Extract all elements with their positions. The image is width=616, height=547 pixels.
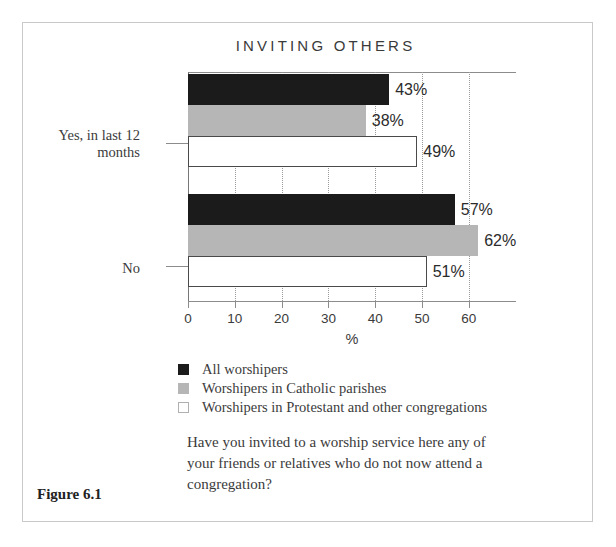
figure-frame: INVITING OTHERS Yes, in last 12 months N…	[22, 22, 593, 522]
x-tick-label-20: 20	[274, 311, 289, 326]
x-axis-title: %	[188, 331, 516, 347]
bar-yes-protestant[interactable]	[188, 136, 417, 167]
x-axis-line	[188, 301, 516, 302]
chart-title: INVITING OTHERS	[23, 37, 592, 54]
category-tick-yes	[166, 143, 188, 144]
bar-yes-all-worshipers[interactable]	[188, 74, 389, 105]
bar-value-yes-catholic: 38%	[366, 112, 404, 130]
x-tick-label-50: 50	[414, 311, 429, 326]
legend-swatch-catholic-parishes	[178, 383, 189, 394]
legend-label-all-worshipers: All worshipers	[202, 361, 288, 378]
category-label-no-line1: No	[0, 260, 140, 277]
bar-group-no: 57% 62% 51%	[188, 194, 516, 288]
legend-item-catholic-parishes[interactable]: Worshipers in Catholic parishes	[178, 379, 487, 398]
bar-value-yes-protestant: 49%	[417, 143, 455, 161]
category-label-yes-line1: Yes, in last 12	[0, 127, 140, 144]
category-label-no: No	[0, 260, 140, 277]
category-tick-no	[166, 266, 188, 267]
category-label-yes: Yes, in last 12 months	[0, 127, 140, 161]
bar-value-no-all: 57%	[455, 201, 493, 219]
legend-item-all-worshipers[interactable]: All worshipers	[178, 360, 487, 379]
category-label-yes-line2: months	[0, 144, 140, 161]
legend-label-protestant-congregations: Worshipers in Protestant and other congr…	[202, 399, 487, 416]
legend-swatch-protestant-congregations	[178, 402, 189, 413]
x-tick-label-0: 0	[184, 311, 192, 326]
x-tick-30	[328, 301, 329, 308]
legend-item-protestant-congregations[interactable]: Worshipers in Protestant and other congr…	[178, 398, 487, 417]
bar-no-all-worshipers[interactable]	[188, 194, 455, 225]
bar-value-yes-all: 43%	[389, 81, 427, 99]
x-tick-60	[469, 301, 470, 308]
x-tick-50	[422, 301, 423, 308]
legend-swatch-all-worshipers	[178, 364, 189, 375]
survey-question-text: Have you invited to a worship service he…	[187, 432, 507, 495]
figure-caption: Figure 6.1	[37, 486, 102, 503]
bar-no-catholic[interactable]	[188, 225, 478, 256]
legend-label-catholic-parishes: Worshipers in Catholic parishes	[202, 380, 386, 397]
bar-value-no-protestant: 51%	[427, 263, 465, 281]
bar-yes-catholic[interactable]	[188, 105, 366, 136]
plot-area: 43% 38% 49% 57% 62% 51%	[188, 72, 516, 301]
bar-no-protestant[interactable]	[188, 256, 427, 287]
x-tick-0	[188, 301, 189, 308]
x-tick-label-10: 10	[227, 311, 242, 326]
x-tick-label-40: 40	[368, 311, 383, 326]
x-tick-10	[235, 301, 236, 308]
x-tick-label-30: 30	[321, 311, 336, 326]
chart-legend: All worshipers Worshipers in Catholic pa…	[178, 360, 487, 417]
x-tick-40	[375, 301, 376, 308]
plot-top-rule	[188, 72, 516, 73]
x-tick-label-60: 60	[461, 311, 476, 326]
bar-value-no-catholic: 62%	[478, 232, 516, 250]
x-tick-20	[282, 301, 283, 308]
bar-group-yes: 43% 38% 49%	[188, 74, 516, 168]
